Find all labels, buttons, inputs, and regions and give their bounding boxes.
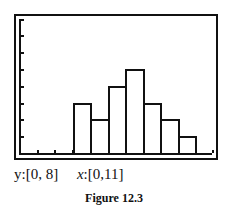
y-tick — [21, 86, 24, 88]
y-tick — [21, 19, 24, 21]
y-tick — [21, 119, 24, 121]
window-settings: y:[0, 8] x:[0,11] — [14, 166, 123, 183]
y-tick — [21, 69, 24, 71]
histogram-bar — [178, 136, 198, 153]
x-tick — [37, 150, 39, 153]
y-tick — [21, 136, 24, 138]
y-tick — [21, 103, 24, 105]
figure-caption: Figure 12.3 — [0, 191, 228, 206]
x-tick — [54, 150, 56, 153]
x-window-range: :[0,11] — [84, 166, 124, 182]
y-tick — [21, 52, 24, 54]
y-tick — [21, 35, 24, 37]
x-axis — [19, 153, 212, 155]
y-window-label: y:[0, 8] — [14, 166, 58, 182]
x-tick — [212, 150, 214, 153]
x-window-prefix: x — [77, 166, 84, 182]
